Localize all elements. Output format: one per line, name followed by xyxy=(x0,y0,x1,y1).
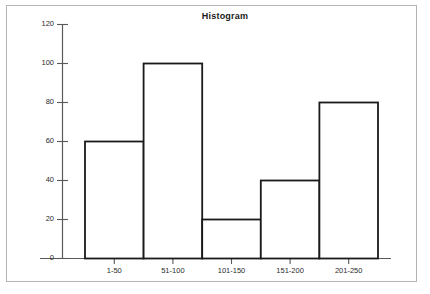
x-tick-label-2: 51-100 xyxy=(143,267,203,275)
bar-1 xyxy=(85,142,144,259)
y-tick-label-0: 0 xyxy=(28,254,54,262)
y-tick-label-120: 120 xyxy=(28,20,54,28)
histogram-screenshot: Histogram xyxy=(0,0,430,294)
bar-3 xyxy=(202,220,261,259)
bar-4 xyxy=(261,181,320,259)
x-tick-label-4: 151-200 xyxy=(260,267,320,275)
y-tick-label-20: 20 xyxy=(28,215,54,223)
y-tick-label-60: 60 xyxy=(28,137,54,145)
bar-2 xyxy=(144,64,203,259)
y-tick-label-100: 100 xyxy=(28,59,54,67)
x-tick-label-3: 101-150 xyxy=(202,267,262,275)
y-tick-label-40: 40 xyxy=(28,176,54,184)
histogram-plot xyxy=(0,0,430,294)
histogram-bars xyxy=(85,64,378,259)
bar-5 xyxy=(319,103,378,259)
x-tick-label-5: 201-250 xyxy=(319,267,379,275)
y-tick-label-80: 80 xyxy=(28,98,54,106)
x-tick-label-1: 1-50 xyxy=(84,267,144,275)
